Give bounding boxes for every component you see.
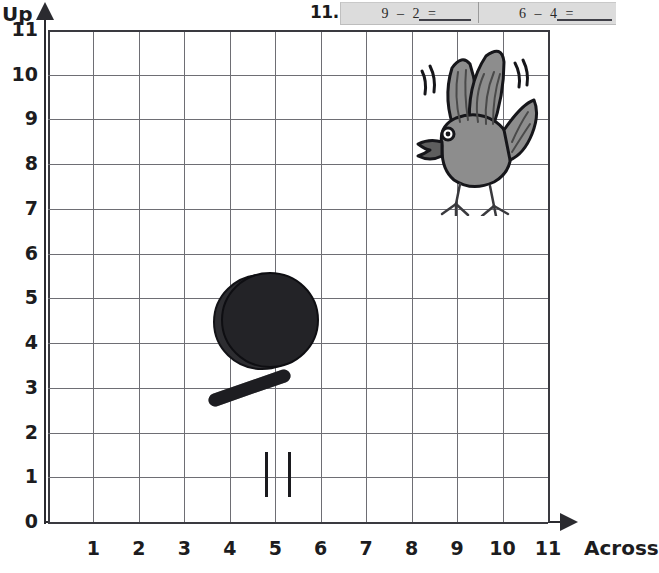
x-tick-label: 10 — [483, 537, 523, 559]
y-tick-label: 2 — [4, 421, 38, 443]
y-tick-label: 6 — [4, 242, 38, 264]
gridline-horizontal — [48, 433, 548, 434]
x-axis-arrow-icon — [560, 513, 578, 531]
x-tick-label: 8 — [392, 537, 432, 559]
y-tick-label: 3 — [4, 376, 38, 398]
gridline-horizontal — [48, 30, 548, 32]
y-tick-label: 1 — [4, 465, 38, 487]
gridline-vertical — [139, 30, 140, 522]
x-tick-label: 7 — [346, 537, 386, 559]
bird-icon — [408, 38, 556, 216]
gridline-horizontal — [48, 522, 548, 524]
y-tick-label: 4 — [4, 331, 38, 353]
x-tick-label: 3 — [164, 537, 204, 559]
y-tick-label: 11 — [4, 18, 38, 40]
y-tick-label: 7 — [4, 197, 38, 219]
frying-pan-icon — [200, 272, 340, 412]
burner-bar-right — [288, 452, 291, 497]
x-axis-title: Across — [584, 536, 659, 560]
y-tick-label: 0 — [4, 510, 38, 532]
x-tick-label: 4 — [210, 537, 250, 559]
y-tick-label: 5 — [4, 286, 38, 308]
burner-bar-left — [265, 452, 268, 497]
y-tick-label: 8 — [4, 152, 38, 174]
x-tick-label: 9 — [437, 537, 477, 559]
x-tick-label: 11 — [528, 537, 568, 559]
gridline-vertical — [93, 30, 94, 522]
gridline-horizontal — [48, 477, 548, 478]
x-tick-label: 2 — [119, 537, 159, 559]
y-tick-label: 10 — [4, 63, 38, 85]
x-tick-label: 6 — [301, 537, 341, 559]
gridline-horizontal — [48, 254, 548, 255]
gridline-vertical — [48, 30, 50, 522]
y-tick-label: 9 — [4, 107, 38, 129]
x-tick-label: 5 — [255, 537, 295, 559]
x-tick-label: 1 — [73, 537, 113, 559]
gridline-vertical — [366, 30, 367, 522]
y-axis-line — [44, 18, 46, 524]
gridline-vertical — [184, 30, 185, 522]
